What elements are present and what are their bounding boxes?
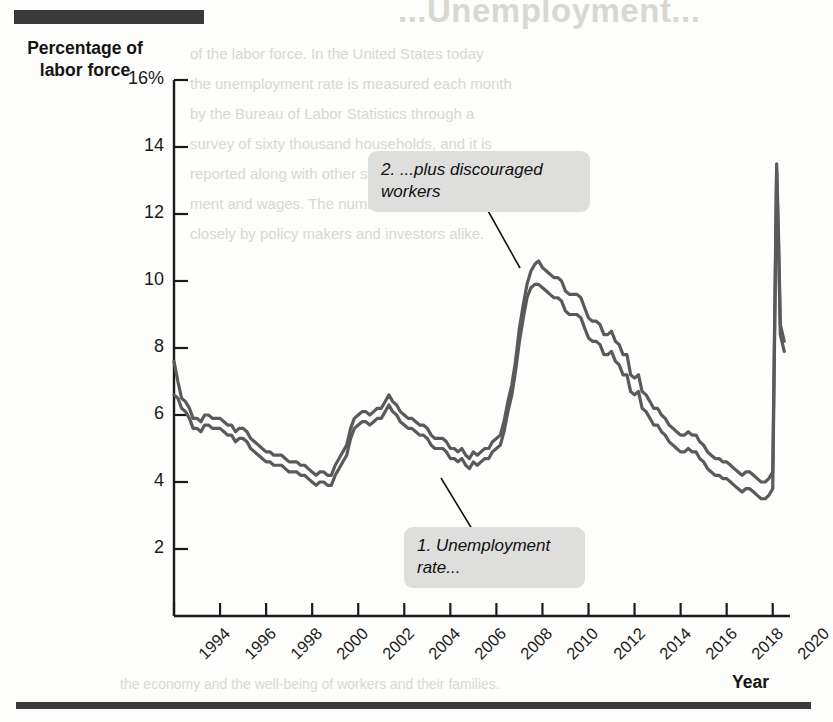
callout-discouraged-workers: 2. ...plus discouraged workers <box>368 151 590 212</box>
y-tick-label: 8 <box>98 336 164 357</box>
y-axis-ticks <box>174 80 188 549</box>
y-tick-label: 2 <box>98 537 164 558</box>
leader-line-2 <box>487 209 520 268</box>
y-tick-label: 14 <box>98 135 164 156</box>
y-tick-label: 16% <box>98 68 164 89</box>
y-tick-label: 6 <box>98 403 164 424</box>
data-series-group <box>174 164 784 499</box>
y-tick-label: 4 <box>98 470 164 491</box>
leader-line-1 <box>441 478 472 529</box>
x-axis-ticks <box>174 603 773 616</box>
y-tick-label: 10 <box>98 269 164 290</box>
y-tick-label: 12 <box>98 202 164 223</box>
callout-unemployment-rate: 1. Unemployment rate... <box>404 527 585 588</box>
leader-lines <box>441 209 520 529</box>
